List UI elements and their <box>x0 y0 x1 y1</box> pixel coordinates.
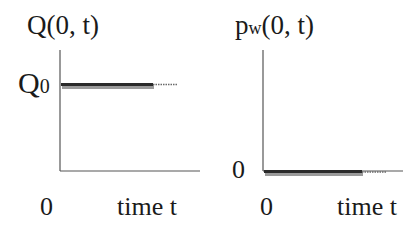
plot-canvas <box>0 0 420 233</box>
left-q0-line <box>61 83 153 86</box>
right-zero-line <box>264 170 362 173</box>
